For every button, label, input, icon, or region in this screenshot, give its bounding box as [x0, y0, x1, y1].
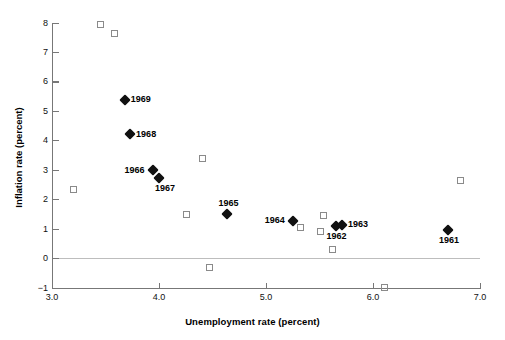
data-point-square	[111, 30, 118, 37]
y-tick-label: 4	[30, 136, 48, 145]
point-label-1969: 1969	[131, 95, 151, 104]
y-tick-mark	[52, 258, 59, 259]
data-point-diamond	[119, 94, 130, 105]
y-tick-label: 7	[30, 48, 48, 57]
data-point-diamond	[222, 208, 233, 219]
y-tick-mark	[52, 288, 59, 289]
data-point-square	[317, 228, 324, 235]
y-tick-mark	[52, 52, 59, 53]
x-axis-title: Unemployment rate (percent)	[0, 316, 505, 327]
x-tick-mark	[480, 283, 481, 289]
data-point-square	[70, 186, 77, 193]
y-tick-label: 1	[30, 225, 48, 234]
y-tick-mark	[52, 229, 59, 230]
data-point-square	[381, 284, 388, 291]
x-tick-label: 5.0	[246, 293, 286, 302]
x-tick-label: 6.0	[353, 293, 393, 302]
x-tick-mark	[159, 283, 160, 289]
point-label-1961: 1961	[439, 236, 459, 245]
data-point-square	[199, 155, 206, 162]
point-label-1965: 1965	[218, 199, 238, 208]
point-label-1963: 1963	[348, 220, 368, 229]
x-tick-label: 3.0	[32, 293, 72, 302]
y-tick-label: 6	[30, 77, 48, 86]
y-tick-label: 2	[30, 195, 48, 204]
data-point-square	[457, 177, 464, 184]
x-tick-mark	[373, 283, 374, 289]
point-label-1962: 1962	[327, 232, 347, 241]
point-label-1966: 1966	[125, 166, 145, 175]
data-point-square	[97, 21, 104, 28]
y-axis-line	[52, 23, 53, 288]
scatter-chart: 876543210−1 3.04.05.06.07.0 196919681966…	[0, 0, 505, 340]
data-point-diamond	[442, 224, 453, 235]
point-label-1968: 1968	[136, 130, 156, 139]
data-point-square	[183, 211, 190, 218]
x-tick-mark	[52, 283, 53, 289]
zero-reference-line	[52, 258, 480, 259]
y-tick-label: 8	[30, 19, 48, 28]
y-tick-label: 0	[30, 254, 48, 263]
y-tick-mark	[52, 170, 59, 171]
x-tick-label: 7.0	[460, 293, 500, 302]
point-label-1964: 1964	[265, 216, 285, 225]
data-point-square	[206, 264, 213, 271]
data-point-diamond	[124, 129, 135, 140]
x-tick-label: 4.0	[139, 293, 179, 302]
data-point-square	[297, 224, 304, 231]
data-point-square	[329, 246, 336, 253]
y-tick-mark	[52, 140, 59, 141]
y-axis-title: Inflation rate (percent)	[13, 68, 24, 248]
y-tick-label: 5	[30, 107, 48, 116]
point-label-1967: 1967	[155, 184, 175, 193]
y-tick-mark	[52, 81, 59, 82]
y-tick-mark	[52, 199, 59, 200]
y-tick-mark	[52, 111, 59, 112]
x-tick-mark	[266, 283, 267, 289]
plot-area: 876543210−1 3.04.05.06.07.0 196919681966…	[0, 0, 505, 340]
y-tick-label: 3	[30, 166, 48, 175]
y-tick-mark	[52, 23, 59, 24]
data-point-square	[320, 212, 327, 219]
